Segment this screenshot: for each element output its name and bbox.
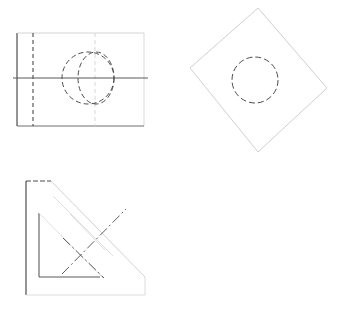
front-view xyxy=(13,33,148,126)
auxiliary-view xyxy=(190,8,327,152)
side-view-slot-edge-lower xyxy=(70,214,105,250)
orthographic-drawing xyxy=(0,0,349,314)
side-view-slot-edge-upper xyxy=(53,196,113,256)
auxiliary-view-hidden-circle xyxy=(232,57,278,103)
side-view-slot-centerline-diagonal xyxy=(62,209,126,274)
drawing-canvas xyxy=(0,0,349,314)
auxiliary-view-outline xyxy=(190,8,327,152)
side-view xyxy=(26,181,145,295)
side-view-chamfer-edge xyxy=(51,181,145,277)
